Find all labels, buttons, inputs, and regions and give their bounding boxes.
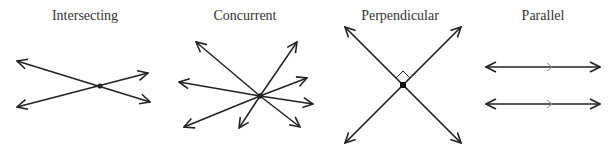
perpendicular-diagram bbox=[345, 27, 461, 143]
intersecting-line-1 bbox=[17, 61, 150, 102]
intersecting-line-2 bbox=[17, 73, 148, 107]
perpendicular-point bbox=[400, 82, 406, 88]
concurrent-diagram bbox=[179, 42, 313, 128]
parallel-diagram bbox=[486, 63, 600, 108]
concurrency-point bbox=[257, 93, 263, 99]
geometry-diagrams bbox=[0, 0, 613, 155]
intersecting-diagram bbox=[17, 61, 150, 107]
intersection-point bbox=[97, 83, 102, 88]
right-angle-mark bbox=[396, 71, 410, 78]
